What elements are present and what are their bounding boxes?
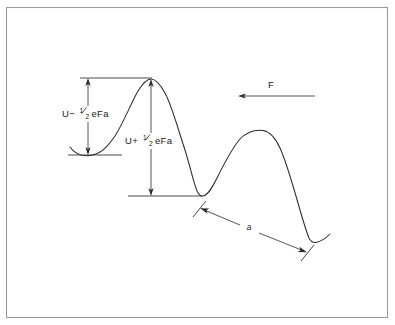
barrier-up-label-numerator: 1 <box>143 134 147 141</box>
figure-root: U− 1 2 eFa U+ 1 2 eFa F a <box>0 0 395 325</box>
lattice-spacing-label: a <box>247 222 252 232</box>
lattice-arrowhead-upleft <box>200 208 209 214</box>
force-arrow <box>238 93 315 98</box>
barrier-up-label-lead: U+ <box>125 135 138 146</box>
barrier-down-label-lead: U− <box>62 108 75 119</box>
barrier-down-label: U− 1 2 eFa <box>62 107 109 121</box>
barrier-down-label-tail: eFa <box>92 108 110 119</box>
barrier-down-label-numerator: 1 <box>80 107 84 114</box>
lattice-tick-right <box>301 245 314 261</box>
barrier-up-label: U+ 1 2 eFa <box>125 134 173 148</box>
figure-frame <box>7 8 388 318</box>
force-label: F <box>268 79 274 90</box>
potential-energy-curve <box>70 79 330 243</box>
lattice-spacing-label-group: a <box>244 221 255 232</box>
lattice-line-right-segment <box>259 233 304 251</box>
potential-energy-diagram: U− 1 2 eFa U+ 1 2 eFa F a <box>0 0 395 325</box>
barrier-down-label-denominator: 2 <box>86 113 90 120</box>
barrier-up-arrow <box>148 79 153 196</box>
barrier-up-label-denominator: 2 <box>149 140 153 147</box>
barrier-up-label-tail: eFa <box>155 135 173 146</box>
lattice-line-left-segment <box>203 210 240 226</box>
